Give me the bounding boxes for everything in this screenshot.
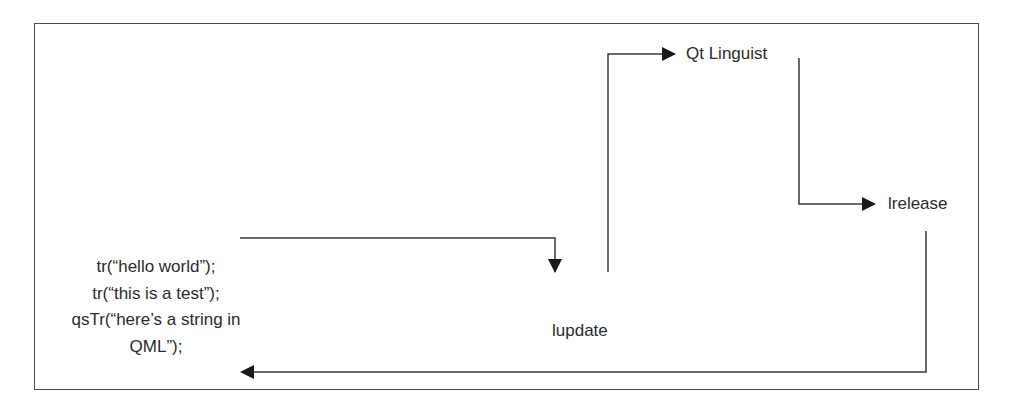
edge-lrelease-to-source — [240, 231, 926, 379]
arrow-right-icon — [862, 197, 876, 211]
node-lupdate: lupdate — [552, 318, 608, 344]
edge-lupdate-to-qt-linguist — [608, 47, 676, 272]
source-code-line: tr(“this is a test”); — [40, 281, 272, 308]
source-code-line: QML”); — [40, 334, 272, 361]
source-code-line: tr(“hello world”); — [40, 254, 272, 281]
edge-source-to-lupdate — [240, 238, 562, 273]
edge-qt-linguist-to-lrelease — [799, 58, 876, 211]
arrow-left-icon — [240, 365, 254, 379]
node-lrelease: lrelease — [888, 191, 948, 217]
arrow-down-icon — [548, 259, 562, 273]
source-code-line: qsTr(“here’s a string in — [40, 307, 272, 334]
source-code-block: tr(“hello world”); tr(“this is a test”);… — [40, 254, 272, 360]
node-qt-linguist: Qt Linguist — [686, 41, 767, 67]
arrow-right-icon — [662, 47, 676, 61]
